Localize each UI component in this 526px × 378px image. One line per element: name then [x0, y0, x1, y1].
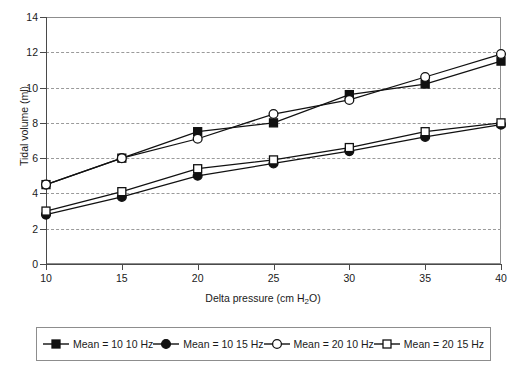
gridline-y-6: [46, 158, 501, 159]
x-axis-title-main: Delta pressure (cm H: [205, 292, 304, 304]
x-tick-10: [46, 264, 47, 270]
gridline-y-10: [46, 88, 501, 89]
y-tick-6: [40, 158, 46, 159]
plot-area: [46, 17, 501, 264]
chart-figure: 14121086420 10152025303540 Delta pressur…: [0, 0, 526, 378]
y-tick-label-14: 14: [0, 12, 38, 22]
y-tick-8: [40, 123, 46, 124]
y-tick-12: [40, 52, 46, 53]
x-tick-15: [122, 264, 123, 270]
legend-marker-filled-square-icon: [43, 338, 69, 350]
legend-label-2: Mean = 20 10 Hz: [294, 338, 374, 350]
legend-marker-open-circle-icon: [264, 338, 290, 350]
legend-item-3[interactable]: Mean = 20 15 Hz: [374, 338, 484, 350]
y-tick-2: [40, 229, 46, 230]
gridline-y-12: [46, 52, 501, 53]
x-tick-label-10: 10: [26, 273, 66, 284]
y-axis-line: [46, 17, 47, 265]
legend-marker-filled-circle-icon: [153, 338, 179, 350]
plot-frame: [46, 17, 501, 264]
legend-label-0: Mean = 10 10 Hz: [73, 338, 153, 350]
legend: Mean = 10 10 HzMean = 10 15 HzMean = 20 …: [36, 327, 491, 361]
legend-item-1[interactable]: Mean = 10 15 Hz: [153, 338, 263, 350]
x-axis-title: Delta pressure (cm H2O): [0, 292, 526, 306]
gridline-y-4: [46, 193, 501, 194]
y-tick-14: [40, 17, 46, 18]
x-tick-20: [198, 264, 199, 270]
y-tick-label-0: 0: [0, 259, 38, 269]
legend-marker-open-square-icon: [374, 338, 400, 350]
x-tick-label-40: 40: [481, 273, 521, 284]
y-tick-10: [40, 88, 46, 89]
y-tick-4: [40, 193, 46, 194]
y-axis-title: Tidal volume (ml): [18, 46, 30, 206]
x-tick-30: [349, 264, 350, 270]
x-tick-label-20: 20: [178, 273, 218, 284]
legend-label-1: Mean = 10 15 Hz: [183, 338, 263, 350]
x-tick-35: [425, 264, 426, 270]
x-tick-label-35: 35: [405, 273, 445, 284]
x-tick-40: [501, 264, 502, 270]
legend-item-2[interactable]: Mean = 20 10 Hz: [264, 338, 374, 350]
gridline-y-8: [46, 123, 501, 124]
y-tick-label-2: 2: [0, 224, 38, 234]
x-tick-label-30: 30: [329, 273, 369, 284]
x-tick-25: [274, 264, 275, 270]
x-tick-label-25: 25: [254, 273, 294, 284]
gridline-y-2: [46, 229, 501, 230]
x-tick-label-15: 15: [102, 273, 142, 284]
x-axis-title-tail: O): [309, 292, 321, 304]
legend-item-0[interactable]: Mean = 10 10 Hz: [43, 338, 153, 350]
legend-label-3: Mean = 20 15 Hz: [404, 338, 484, 350]
